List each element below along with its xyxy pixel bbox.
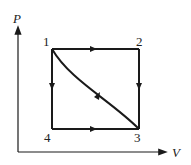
point-label-2: 2 <box>136 34 143 49</box>
cycle <box>52 49 139 129</box>
arrow-down-icon <box>136 83 142 90</box>
arrow-right-icon <box>90 126 97 132</box>
point-label-3: 3 <box>134 130 141 145</box>
path-3-1-curve <box>52 49 139 129</box>
point-label-1: 1 <box>43 34 50 49</box>
v-axis-label: V <box>172 145 182 160</box>
p-axis-label: P <box>12 11 21 26</box>
axes: P V <box>12 11 182 160</box>
arrow-right-icon <box>90 46 97 52</box>
point-label-4: 4 <box>44 130 51 145</box>
pv-diagram: P V 1 2 3 4 <box>0 0 191 165</box>
arrow-down-icon <box>49 83 55 90</box>
